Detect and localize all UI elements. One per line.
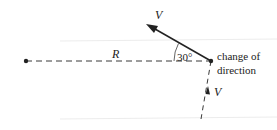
guide-line-bottom xyxy=(60,117,277,119)
change-label-line1: change of xyxy=(217,50,260,62)
guide-line-top xyxy=(60,39,277,41)
velocity-out-arrowhead xyxy=(146,24,158,33)
velocity-out-label: V xyxy=(155,8,162,23)
velocity-in-label: V xyxy=(214,85,221,100)
change-label-line2: direction xyxy=(217,64,256,76)
incoming-path-dashed-line xyxy=(201,61,211,119)
radius-label: R xyxy=(112,47,119,62)
angle-label: 30° xyxy=(177,51,192,63)
center-point xyxy=(24,59,28,63)
velocity-change-diagram: V R 30° change of direction V xyxy=(0,0,277,130)
